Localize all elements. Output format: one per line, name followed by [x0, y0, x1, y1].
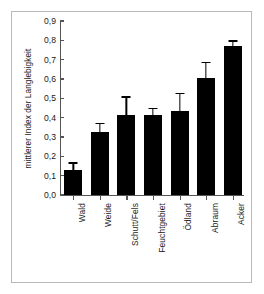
bar	[64, 170, 82, 195]
bar-group	[113, 21, 140, 195]
y-tick-label: 0,8	[34, 35, 56, 45]
error-bar-cap	[228, 40, 237, 41]
bar-group	[219, 21, 246, 195]
error-bar-line	[205, 62, 206, 78]
y-axis-title: mittlerer Index der Langlebigkeit	[24, 24, 33, 194]
bar	[91, 132, 109, 195]
x-tick-label: Weide	[103, 203, 113, 227]
x-tick-mark	[126, 196, 127, 200]
y-tick-label: 0,1	[34, 171, 56, 181]
error-bar-cap	[175, 93, 184, 94]
y-tick-label: 0,0	[34, 190, 56, 200]
x-tick-label: Wald	[77, 203, 87, 222]
y-tick-label: 0,5	[34, 93, 56, 103]
x-tick-label: Feuchtgebiet	[157, 203, 167, 253]
x-tick-mark	[180, 196, 181, 200]
x-tick-mark	[73, 196, 74, 200]
error-bar-line	[179, 93, 180, 111]
y-tick-label: 0,4	[34, 113, 56, 123]
bar-group	[193, 21, 220, 195]
x-tick-mark	[206, 196, 207, 200]
bar	[171, 111, 189, 195]
error-bar-cap	[69, 162, 78, 163]
bar	[117, 115, 135, 195]
plot-area	[60, 21, 246, 195]
y-tick-label: 0,2	[34, 151, 56, 161]
x-tick-mark	[233, 196, 234, 200]
bar-group	[87, 21, 114, 195]
bar-group	[140, 21, 167, 195]
error-bar-cap	[122, 96, 131, 97]
bar-group	[166, 21, 193, 195]
x-tick-label: Acker	[236, 203, 246, 225]
y-tick-label: 0,6	[34, 74, 56, 84]
error-bar-line	[126, 96, 127, 114]
bar	[197, 78, 215, 195]
x-tick-mark	[100, 196, 101, 200]
x-tick-label: Ödland	[183, 203, 193, 231]
bar-group	[60, 21, 87, 195]
error-bar-cap	[95, 123, 104, 124]
y-tick-label: 0,9	[34, 16, 56, 26]
bar	[224, 46, 242, 195]
error-bar-line	[99, 123, 100, 133]
error-bar-cap	[148, 108, 157, 109]
y-tick-label: 0,3	[34, 132, 56, 142]
y-tick-label: 0,7	[34, 55, 56, 65]
error-bar-cap	[202, 62, 211, 63]
chart-figure: mittlerer Index der Langlebigkeit 0,00,1…	[0, 0, 264, 294]
bar	[144, 115, 162, 195]
x-tick-mark	[153, 196, 154, 200]
x-tick-label: Schutt/Fels	[130, 203, 140, 246]
x-tick-label: Abraum	[210, 203, 220, 233]
